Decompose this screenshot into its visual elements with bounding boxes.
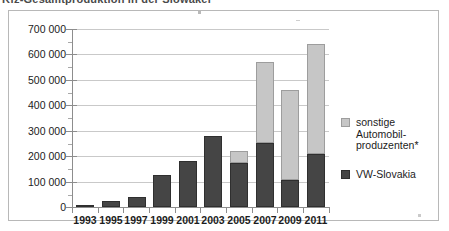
x-tick bbox=[200, 208, 201, 213]
bar-segment-other bbox=[230, 151, 248, 163]
y-tick-minor bbox=[68, 42, 72, 43]
x-axis-label: 2001 bbox=[175, 214, 201, 226]
x-tick bbox=[175, 208, 176, 213]
bar-segment-vw bbox=[204, 136, 222, 207]
scan-speck bbox=[296, 20, 300, 21]
x-axis-label: 2009 bbox=[277, 214, 303, 226]
x-axis-label: 1995 bbox=[98, 214, 124, 226]
legend-item-other: sonstige Automobil- produzenten* bbox=[341, 117, 445, 152]
x-axis-label: 2011 bbox=[303, 214, 329, 226]
gridline bbox=[72, 29, 329, 30]
y-tick-inner bbox=[72, 105, 77, 106]
x-axis-labels: 1993 1995 1997 1999 2001 2003 2005 2007 … bbox=[72, 214, 330, 228]
x-tick bbox=[226, 208, 227, 213]
x-tick bbox=[277, 208, 278, 213]
bar-segment-vw bbox=[230, 163, 248, 207]
cut-off-heading-text: Kfz-Gesamtproduktion in der Slowakei bbox=[2, 0, 302, 5]
x-tick bbox=[98, 208, 99, 213]
x-axis-label: 1999 bbox=[149, 214, 175, 226]
y-tick-inner bbox=[72, 29, 77, 30]
bar-segment-other bbox=[281, 90, 299, 180]
y-axis-label: 400 000 bbox=[18, 100, 66, 110]
x-axis-label: 2003 bbox=[200, 214, 226, 226]
plot-area bbox=[72, 29, 329, 207]
y-tick-minor bbox=[68, 93, 72, 94]
x-tick bbox=[123, 208, 124, 213]
cut-off-heading: Kfz-Gesamtproduktion in der Slowakei bbox=[2, 0, 302, 7]
x-tick bbox=[149, 208, 150, 213]
y-axis-label: 700 000 bbox=[18, 24, 66, 34]
bar-group bbox=[204, 136, 222, 207]
y-tick-minor bbox=[68, 67, 72, 68]
y-tick-inner bbox=[72, 54, 77, 55]
x-axis-label: 1997 bbox=[123, 214, 149, 226]
scan-speck bbox=[418, 214, 421, 217]
x-tick bbox=[329, 208, 330, 213]
x-axis-label: 1993 bbox=[72, 214, 98, 226]
bar-segment-vw bbox=[256, 143, 274, 207]
y-tick-inner bbox=[72, 80, 77, 81]
legend-label-vw: VW-Slovakia bbox=[356, 169, 445, 181]
bar-segment-vw bbox=[281, 180, 299, 207]
bar-segment-other bbox=[307, 44, 325, 154]
scan-speck bbox=[198, 11, 201, 14]
y-axis-label: 200 000 bbox=[18, 151, 66, 161]
x-tick bbox=[252, 208, 253, 213]
y-tick-inner bbox=[72, 156, 77, 157]
x-tick bbox=[72, 208, 73, 213]
gridline bbox=[72, 54, 329, 55]
y-axis-label: 600 000 bbox=[18, 49, 66, 59]
x-axis-label: 2005 bbox=[226, 214, 252, 226]
bar-segment-vw bbox=[153, 175, 171, 207]
x-tick bbox=[303, 208, 304, 213]
y-axis-labels: 700 000 600 000 500 000 400 000 300 000 … bbox=[15, 29, 66, 208]
bar-group bbox=[281, 90, 299, 207]
bar-group bbox=[256, 62, 274, 207]
legend-swatch-vw-icon bbox=[341, 170, 350, 179]
bar-group bbox=[153, 175, 171, 207]
chart-frame: 700 000 600 000 500 000 400 000 300 000 … bbox=[8, 10, 439, 221]
y-axis-label: 300 000 bbox=[18, 126, 66, 136]
y-axis-label: 500 000 bbox=[18, 75, 66, 85]
bar-segment-vw bbox=[307, 154, 325, 207]
bar-segment-other bbox=[256, 62, 274, 143]
chart-page: Kfz-Gesamtproduktion in der Slowakei 700… bbox=[0, 0, 449, 231]
legend-item-vw: VW-Slovakia bbox=[341, 169, 445, 181]
y-tick-minor bbox=[68, 118, 72, 119]
legend: sonstige Automobil- produzenten* VW-Slov… bbox=[341, 117, 445, 193]
bar-group bbox=[128, 197, 146, 207]
bar-segment-vw bbox=[179, 161, 197, 207]
y-axis-label: 0 bbox=[18, 202, 66, 212]
y-axis-label: 100 000 bbox=[18, 177, 66, 187]
bar-segment-vw bbox=[128, 197, 146, 207]
y-tick-inner bbox=[72, 182, 77, 183]
x-axis-label: 2007 bbox=[252, 214, 278, 226]
bar-group bbox=[307, 44, 325, 207]
bar-group bbox=[179, 161, 197, 207]
legend-label-other: sonstige Automobil- produzenten* bbox=[356, 117, 445, 152]
y-tick-inner bbox=[72, 131, 77, 132]
y-tick-minor bbox=[68, 144, 72, 145]
bar-group bbox=[230, 151, 248, 207]
gridline bbox=[72, 80, 329, 81]
y-tick-minor bbox=[68, 169, 72, 170]
legend-swatch-other-icon bbox=[341, 118, 350, 127]
y-tick-minor bbox=[68, 195, 72, 196]
